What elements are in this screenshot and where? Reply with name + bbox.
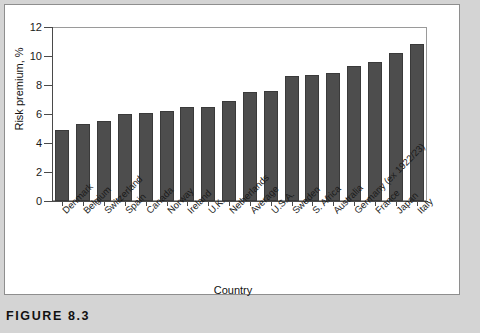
y-axis-tick-label: 12 — [14, 22, 42, 32]
figure-panel: Risk premium, % 024681012 DenmarkBelgium… — [4, 4, 460, 295]
y-axis-tick — [44, 201, 52, 202]
y-axis-tick — [44, 56, 52, 57]
y-axis-tick-label: 6 — [14, 109, 42, 119]
y-axis-tick — [44, 114, 52, 115]
y-axis-tick — [44, 143, 52, 144]
y-axis-labels: 024681012 — [5, 5, 42, 296]
bar — [326, 73, 340, 201]
bar — [55, 130, 69, 201]
y-axis-tick — [44, 85, 52, 86]
y-axis-tick-label: 2 — [14, 167, 42, 177]
y-axis-tick-label: 10 — [14, 51, 42, 61]
bar — [410, 44, 424, 201]
y-axis-tick — [44, 27, 52, 28]
y-axis-tick-label: 0 — [14, 196, 42, 206]
bar-series — [52, 27, 427, 201]
bar — [201, 107, 215, 201]
y-axis-tick-label: 8 — [14, 80, 42, 90]
x-axis-title: Country — [5, 284, 461, 296]
y-axis-tick — [44, 172, 52, 173]
y-axis-tick-label: 4 — [14, 138, 42, 148]
bar — [222, 101, 236, 201]
bar — [305, 75, 319, 201]
bar — [285, 76, 299, 201]
bar — [347, 66, 361, 201]
bar — [139, 113, 153, 201]
figure-caption: FIGURE 8.3 — [6, 309, 90, 323]
